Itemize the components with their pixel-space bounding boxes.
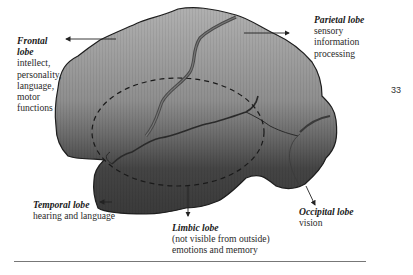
temporal-lobe-line: hearing and language	[33, 210, 115, 221]
limbic-lobe-line: emotions and memory	[172, 244, 270, 255]
limbic-lobe-line: (not visible from outside)	[172, 233, 270, 244]
frontal-lobe-line: personality,	[17, 69, 61, 80]
limbic-lobe-label: Limbic lobe (not visible from outside) e…	[172, 222, 270, 256]
horizontal-rule	[14, 261, 366, 262]
frontal-lobe-line: intellect,	[17, 57, 61, 68]
occipital-lobe-title: Occipital lobe	[299, 206, 354, 217]
occipital-lobe-line: vision	[299, 217, 354, 228]
parietal-lobe-line: processing	[314, 48, 364, 59]
frontal-lobe-line: language,	[17, 80, 61, 91]
frontal-lobe-title-1: Frontal	[17, 35, 61, 46]
page-number: 33	[391, 85, 401, 95]
frontal-lobe-title-2: lobe	[17, 46, 61, 57]
parietal-lobe-line: information	[314, 36, 364, 47]
parietal-lobe-line: sensory	[314, 25, 364, 36]
temporal-lobe-label: Temporal lobe hearing and language	[33, 199, 115, 221]
parietal-lobe-label: Parietal lobe sensory information proces…	[314, 14, 364, 59]
occipital-arrow	[306, 186, 315, 205]
parietal-lobe-title: Parietal lobe	[314, 14, 364, 25]
frontal-lobe-line: functions	[17, 102, 61, 113]
limbic-lobe-title: Limbic lobe	[172, 222, 270, 233]
frontal-lobe-label: Frontal lobe intellect, personality, lan…	[17, 35, 61, 113]
frontal-lobe-line: motor	[17, 91, 61, 102]
occipital-lobe-label: Occipital lobe vision	[299, 206, 354, 228]
temporal-lobe-title: Temporal lobe	[33, 199, 115, 210]
